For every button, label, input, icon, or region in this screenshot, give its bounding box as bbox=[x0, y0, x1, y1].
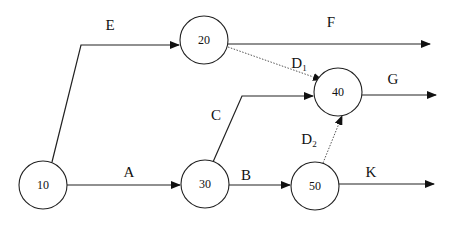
edge-label-D2-main: D bbox=[301, 131, 312, 147]
edge-label-A: A bbox=[124, 164, 135, 180]
edge-label-F: F bbox=[327, 14, 335, 30]
node-30: 30 bbox=[181, 160, 229, 208]
edge-label-D1-sub: 1 bbox=[302, 63, 307, 73]
node-10: 10 bbox=[19, 161, 67, 209]
edge-label-D1: D1 bbox=[291, 55, 306, 73]
edge-D2-dummy bbox=[323, 116, 342, 163]
node-40: 40 bbox=[314, 68, 362, 116]
edge-label-D2: D2 bbox=[301, 131, 316, 149]
node-20-label: 20 bbox=[198, 33, 210, 47]
edge-label-E: E bbox=[105, 17, 114, 33]
edge-label-B: B bbox=[241, 167, 251, 183]
node-10-label: 10 bbox=[37, 178, 49, 192]
edge-label-G: G bbox=[388, 71, 399, 87]
node-40-label: 40 bbox=[332, 85, 344, 99]
node-20: 20 bbox=[180, 16, 228, 64]
edge-label-C: C bbox=[211, 107, 221, 123]
node-50-label: 50 bbox=[309, 179, 321, 193]
edge-label-K: K bbox=[366, 164, 377, 180]
node-50: 50 bbox=[291, 162, 339, 210]
edge-D1-dummy bbox=[228, 47, 322, 80]
edge-E bbox=[52, 45, 179, 162]
edge-C bbox=[213, 96, 313, 162]
edge-label-D2-sub: 2 bbox=[312, 139, 317, 149]
edge-label-D1-main: D bbox=[291, 55, 302, 71]
node-30-label: 30 bbox=[199, 177, 211, 191]
network-diagram: 10 20 30 40 50 E F D1 G C A B D2 K bbox=[0, 0, 452, 226]
